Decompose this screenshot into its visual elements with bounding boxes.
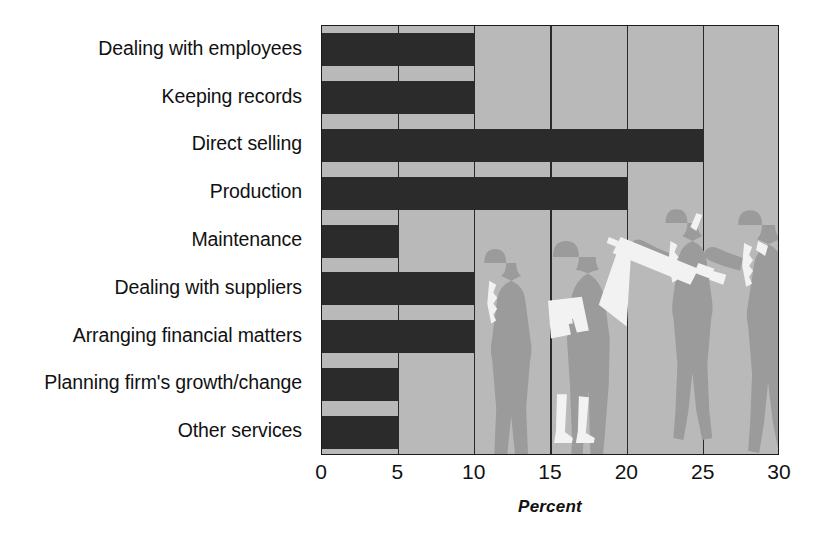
x-tick-label: 10	[462, 461, 485, 482]
bar	[322, 129, 704, 162]
bar	[322, 225, 398, 258]
gridline-25	[703, 26, 705, 454]
gridline-20	[627, 26, 629, 454]
category-label: Other services	[2, 421, 302, 441]
bar	[322, 320, 475, 353]
bar	[322, 33, 475, 66]
x-tick-label: 0	[315, 461, 327, 482]
category-label: Keeping records	[2, 87, 302, 107]
category-label: Dealing with suppliers	[2, 278, 302, 298]
bar	[322, 272, 475, 305]
x-axis-title: Percent	[321, 497, 779, 517]
bar-chart: Dealing with employeesKeeping recordsDir…	[0, 0, 830, 545]
bar	[322, 416, 398, 449]
category-label: Arranging financial matters	[2, 326, 302, 346]
bar	[322, 81, 475, 114]
x-tick-label: 15	[538, 461, 561, 482]
x-tick-label: 20	[615, 461, 638, 482]
category-label: Maintenance	[2, 230, 302, 250]
x-tick-label: 30	[767, 461, 790, 482]
category-label: Dealing with employees	[2, 39, 302, 59]
x-tick-label: 5	[391, 461, 403, 482]
category-label: Direct selling	[2, 134, 302, 154]
category-axis-labels: Dealing with employeesKeeping recordsDir…	[0, 25, 312, 455]
x-axis-tick-labels: 051015202530	[321, 461, 779, 493]
bar	[322, 368, 398, 401]
category-label: Production	[2, 182, 302, 202]
gridline-15	[550, 26, 552, 454]
category-label: Planning firm's growth/change	[2, 373, 302, 393]
plot-area	[321, 25, 779, 455]
bar	[322, 177, 627, 210]
x-tick-label: 25	[691, 461, 714, 482]
